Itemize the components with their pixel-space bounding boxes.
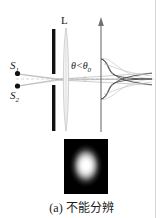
source-point-s2: [15, 83, 20, 88]
airy-disk-blob: [66, 141, 106, 193]
aperture-bar-upper: [52, 29, 55, 74]
figure-caption: (a) 不能分辨: [0, 198, 163, 216]
angle-condition-label: θ<θ0: [71, 61, 91, 74]
figure-container: L S1 S2 θ<θ0 (a) 不能分辨: [0, 0, 163, 218]
angle-condition-subscript: 0: [88, 66, 92, 74]
source-label-s1-subscript: 1: [16, 66, 20, 74]
diffraction-pattern-image: [64, 139, 108, 194]
aperture-bar-lower: [52, 85, 55, 131]
intensity-curve-s2: [101, 79, 152, 99]
source-label-s1: S1: [10, 60, 19, 74]
source-label-s2: S2: [10, 90, 19, 104]
source-label-s2-subscript: 2: [16, 96, 20, 104]
page-border-rule: [155, 0, 156, 218]
intensity-curve-s1: [101, 59, 152, 79]
lens-label: L: [61, 15, 68, 26]
vertical-axis-arrowhead: [98, 17, 104, 26]
